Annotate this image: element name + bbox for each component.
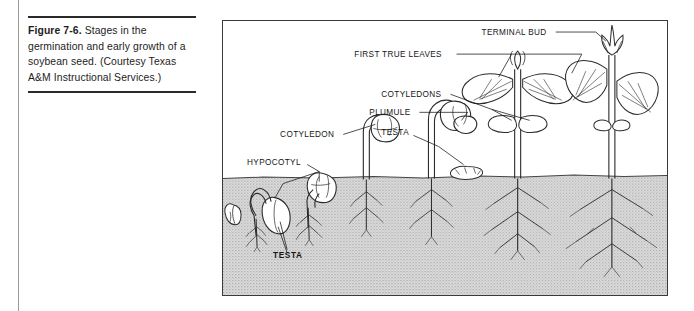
- label-plumule: PLUMULE: [369, 108, 410, 117]
- label-cotyledon: COTYLEDON: [280, 130, 334, 139]
- caption-rule-bottom: [28, 91, 196, 93]
- figure-caption-block: Figure 7-6. Stages in the germination an…: [28, 16, 198, 93]
- figure-illustration-frame: TERMINAL BUD FIRST TRUE LEAVES COTYLEDON…: [222, 20, 668, 296]
- figure-number-label: Figure 7-6.: [28, 25, 82, 36]
- shed-testa: [450, 166, 482, 179]
- label-terminal-bud: TERMINAL BUD: [482, 28, 547, 37]
- label-hypocotyl: HYPOCOTYL: [247, 158, 301, 167]
- label-testa-upper: TESTA: [381, 128, 409, 137]
- figure-caption-text: Figure 7-6. Stages in the germination an…: [28, 18, 198, 86]
- soil-region: [223, 175, 667, 295]
- page-gutter-rule: [18, 0, 19, 311]
- label-testa-lower: TESTA: [273, 251, 302, 260]
- sky-region: [223, 21, 667, 178]
- soybean-germination-diagram: TERMINAL BUD FIRST TRUE LEAVES COTYLEDON…: [223, 21, 667, 295]
- label-cotyledons: COTYLEDONS: [381, 90, 441, 99]
- label-first-true-leaves: FIRST TRUE LEAVES: [354, 50, 442, 59]
